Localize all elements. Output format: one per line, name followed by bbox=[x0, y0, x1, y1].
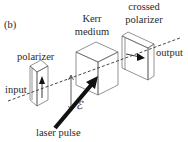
input-label: input bbox=[5, 84, 27, 96]
kerr-medium-label-line1: Kerr bbox=[78, 13, 106, 25]
polarization-arrow-vertical bbox=[39, 76, 45, 98]
laser-pulse-label: laser pulse bbox=[36, 127, 81, 139]
output-label: output bbox=[156, 47, 183, 59]
kerr-medium-cube bbox=[76, 42, 118, 95]
crossed-polarizer-label-line1: crossed bbox=[124, 1, 164, 13]
polarizer-slab bbox=[30, 60, 48, 106]
panel-label: (b) bbox=[4, 19, 16, 31]
field-symbol-label: ℰ bbox=[76, 99, 83, 111]
kerr-medium-label-line2: medium bbox=[72, 26, 112, 38]
crossed-polarizer-label-line2: polarizer bbox=[120, 14, 168, 26]
polarizer-label: polarizer bbox=[17, 51, 54, 63]
